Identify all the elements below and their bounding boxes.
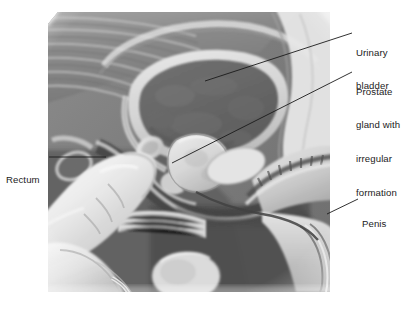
label-prostate-line-2: gland with [356, 119, 400, 130]
label-rectum: Rectum [6, 151, 40, 207]
label-urinary-bladder-line-1: Urinary [356, 47, 389, 58]
anatomy-illustration [0, 0, 408, 328]
penis-leader [327, 199, 358, 214]
label-prostate-line-3: irregular [356, 153, 400, 164]
label-penis: Penis [362, 195, 387, 251]
figure-root: Urinary bladder Prostate gland with irre… [0, 0, 408, 328]
label-penis-line-1: Penis [362, 218, 387, 229]
label-prostate-line-1: Prostate [356, 86, 400, 97]
label-rectum-line-1: Rectum [6, 174, 40, 185]
